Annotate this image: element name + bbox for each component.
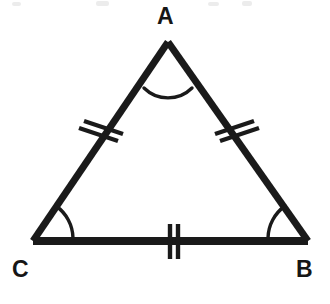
scan-artifacts (12, 1, 252, 6)
angle-arc-c (56, 206, 73, 238)
triangle-outline (33, 42, 308, 241)
triangle-diagram (0, 0, 330, 304)
vertex-label-b: B (296, 258, 313, 281)
angle-arc-b (268, 206, 285, 238)
angle-arc-a (144, 88, 192, 98)
vertex-label-c: C (12, 258, 29, 281)
scan-artifact (242, 1, 252, 6)
side-ab (168, 42, 308, 241)
scan-artifact (208, 2, 219, 6)
geometry-figure: A C B (0, 0, 330, 304)
vertex-label-a: A (157, 5, 174, 28)
side-ac (33, 42, 168, 241)
scan-artifact (12, 2, 21, 6)
scan-artifact (96, 1, 109, 6)
